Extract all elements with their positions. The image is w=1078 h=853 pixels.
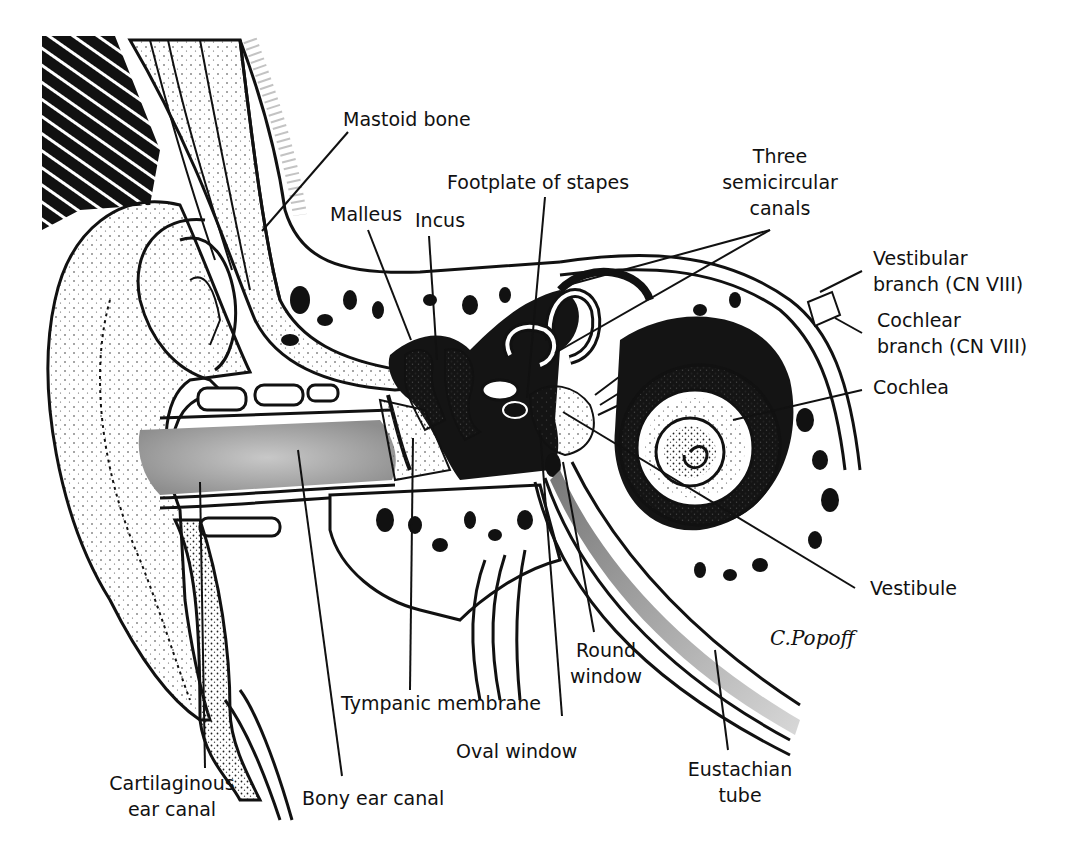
label-tympanic-membrane: Tympanic membrane bbox=[340, 692, 541, 714]
label-vestibular-branch-1: Vestibular bbox=[873, 247, 968, 269]
ear-anatomy-diagram: Mastoid bone Malleus Incus Footplate of … bbox=[0, 0, 1078, 853]
label-semicircular-canals-1: Three bbox=[752, 145, 807, 167]
label-eustachian-tube-1: Eustachian bbox=[688, 758, 793, 780]
label-semicircular-canals-3: canals bbox=[750, 197, 811, 219]
label-mastoid-bone: Mastoid bone bbox=[343, 108, 471, 130]
label-malleus: Malleus bbox=[330, 203, 402, 225]
artist-signature: C.Popoff bbox=[770, 626, 858, 650]
label-semicircular-canals-2: semicircular bbox=[722, 171, 838, 193]
diagram-svg: Mastoid bone Malleus Incus Footplate of … bbox=[0, 0, 1078, 853]
label-vestibule: Vestibule bbox=[870, 577, 957, 599]
label-footplate-of-stapes: Footplate of stapes bbox=[447, 171, 629, 193]
label-oval-window: Oval window bbox=[456, 740, 577, 762]
label-cochlear-branch-1: Cochlear bbox=[877, 309, 961, 331]
label-cochlea: Cochlea bbox=[873, 376, 949, 398]
label-cartilaginous-canal-1: Cartilaginous bbox=[109, 772, 234, 794]
label-round-window-2: window bbox=[570, 665, 642, 687]
scalp-muscle bbox=[42, 36, 160, 230]
cochlea bbox=[614, 317, 793, 531]
label-eustachian-tube-2: tube bbox=[718, 784, 761, 806]
label-round-window-1: Round bbox=[576, 639, 636, 661]
label-incus: Incus bbox=[415, 209, 465, 231]
label-vestibular-branch-2: branch (CN VIII) bbox=[873, 273, 1023, 295]
label-cartilaginous-canal-2: ear canal bbox=[128, 798, 216, 820]
label-bony-ear-canal: Bony ear canal bbox=[302, 787, 444, 809]
label-cochlear-branch-2: branch (CN VIII) bbox=[877, 335, 1027, 357]
